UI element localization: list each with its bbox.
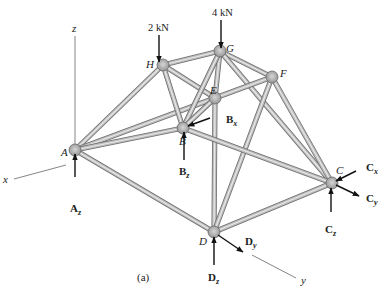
- joint-d: [208, 226, 220, 238]
- reaction-label-bz: Bz: [179, 165, 190, 180]
- node-label-e: E: [209, 84, 217, 96]
- y-axis-line: [252, 255, 296, 278]
- reaction-arrow-dy: [218, 235, 243, 252]
- load-label-4kn: 4 kN: [212, 7, 233, 18]
- node-label-g: G: [226, 42, 234, 54]
- reaction-label-cy: Cy: [366, 192, 378, 207]
- joint-f: [266, 71, 278, 83]
- y-axis-label: y: [300, 274, 306, 286]
- z-axis-label: z: [71, 22, 77, 34]
- figure-caption: (a): [137, 271, 150, 284]
- joint-c: [326, 177, 338, 189]
- truss-member-ad: [75, 150, 214, 232]
- reaction-label-dz: Dz: [208, 271, 220, 286]
- truss-member-fc: [272, 77, 332, 183]
- reaction-arrow-cy: [336, 185, 359, 196]
- joint-g: [214, 45, 226, 57]
- node-label-h: H: [145, 58, 155, 70]
- truss-members: [75, 51, 332, 232]
- node-label-d: D: [198, 235, 207, 247]
- node-label-c: C: [336, 164, 344, 176]
- reaction-label-cz: Cz: [325, 223, 337, 238]
- reaction-label-bx: Bx: [226, 113, 237, 128]
- x-axis-line: [14, 165, 66, 179]
- reaction-label-dy: Dy: [245, 235, 257, 250]
- joint-b: [177, 122, 189, 134]
- reaction-label-cx: Cx: [366, 161, 378, 176]
- node-label-b: B: [179, 135, 186, 147]
- space-truss-diagram: z x y A B C D E F G H 2 kN 4 kN Az Bx Bz: [0, 0, 388, 293]
- x-axis-label: x: [2, 173, 8, 185]
- node-label-a: A: [60, 146, 68, 158]
- load-label-2kn: 2 kN: [148, 22, 169, 33]
- reaction-label-az: Az: [70, 202, 82, 217]
- node-label-f: F: [279, 67, 287, 79]
